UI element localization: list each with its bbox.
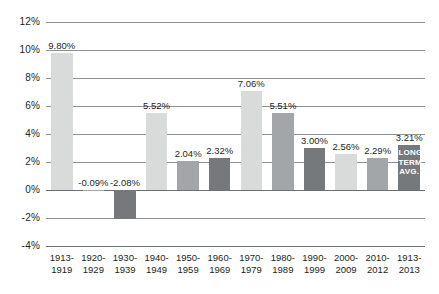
x-category-label-line: 1999 <box>299 264 331 276</box>
x-category-label-line: 1979 <box>236 264 268 276</box>
bar-value-label: 7.06% <box>231 79 272 89</box>
x-category-label-line: 1980- <box>267 252 299 264</box>
bar-value-label: 5.52% <box>136 101 177 111</box>
bar-value-label: 5.51% <box>262 101 303 111</box>
x-category-label: 1950-1959 <box>172 252 204 276</box>
x-category-label-line: 2012 <box>362 264 394 276</box>
bar-group: 5.51% <box>272 0 293 294</box>
y-tick-label: 12% <box>0 17 40 27</box>
x-category-label-line: 1989 <box>267 264 299 276</box>
x-category-label-line: 2010- <box>362 252 394 264</box>
x-category-label: 2010-2012 <box>362 252 394 276</box>
x-category-label: 1913-1919 <box>46 252 78 276</box>
x-category-label: 1913-2013 <box>393 252 425 276</box>
bar-group: 3.00% <box>304 0 325 294</box>
bar <box>272 113 293 190</box>
bar-chart: 12%10%8%6%4%2%0%-2%-4% 9.80%-0.09%-2.08%… <box>0 0 439 294</box>
bar-group: 9.80% <box>51 0 72 294</box>
y-tick-label: 6% <box>0 101 40 111</box>
bar <box>367 158 388 190</box>
x-category-label-line: 1919 <box>46 264 78 276</box>
bar <box>114 190 135 219</box>
bar-group: LONGTERMAVG.3.21% <box>398 0 419 294</box>
x-category-label-line: 1990- <box>299 252 331 264</box>
y-tick-label: -4% <box>0 241 40 251</box>
bar <box>146 113 167 190</box>
x-category-label-line: 1920- <box>78 252 110 264</box>
bar-value-label: 9.80% <box>41 41 82 51</box>
bar-annotation-line: LONG <box>398 148 419 158</box>
bar-group: -0.09% <box>83 0 104 294</box>
bar-value-label: -2.08% <box>104 178 145 188</box>
x-axis-category-labels: 1913-19191920-19291930-19391940-19491950… <box>46 252 425 284</box>
x-category-label-line: 1970- <box>236 252 268 264</box>
bar-group: -2.08% <box>114 0 135 294</box>
y-tick-label: 0% <box>0 185 40 195</box>
x-category-label: 1990-1999 <box>299 252 331 276</box>
x-category-label: 1970-1979 <box>236 252 268 276</box>
bar-annotation: LONGTERMAVG. <box>398 148 419 177</box>
x-category-label-line: 1949 <box>141 264 173 276</box>
x-category-label-line: 1939 <box>109 264 141 276</box>
bar: LONGTERMAVG. <box>398 145 419 190</box>
x-category-label-line: 2013 <box>393 264 425 276</box>
x-category-label: 2000-2009 <box>330 252 362 276</box>
x-category-label: 1930-1939 <box>109 252 141 276</box>
bar <box>335 154 356 190</box>
bar-group: 2.29% <box>367 0 388 294</box>
x-category-label: 1920-1929 <box>78 252 110 276</box>
y-tick-label: 4% <box>0 129 40 139</box>
x-category-label-line: 2000- <box>330 252 362 264</box>
x-category-label-line: 1930- <box>109 252 141 264</box>
bar-value-label: 2.32% <box>199 146 240 156</box>
x-category-label-line: 1950- <box>172 252 204 264</box>
bar-series: 9.80%-0.09%-2.08%5.52%2.04%2.32%7.06%5.5… <box>46 0 425 294</box>
bar <box>304 148 325 190</box>
bar <box>177 161 198 190</box>
bar-group: 2.04% <box>177 0 198 294</box>
x-category-label: 1960-1969 <box>204 252 236 276</box>
x-category-label-line: 1940- <box>141 252 173 264</box>
y-tick-label: -2% <box>0 213 40 223</box>
bar-value-label: 3.21% <box>388 133 429 143</box>
x-category-label-line: 1929 <box>78 264 110 276</box>
bar-group: 7.06% <box>241 0 262 294</box>
x-category-label: 1980-1989 <box>267 252 299 276</box>
bar <box>209 158 230 190</box>
bar <box>241 91 262 190</box>
bar <box>51 53 72 190</box>
y-tick-label: 10% <box>0 45 40 55</box>
x-category-label: 1940-1949 <box>141 252 173 276</box>
x-category-label-line: 1969 <box>204 264 236 276</box>
y-tick-label: 8% <box>0 73 40 83</box>
x-category-label-line: 2009 <box>330 264 362 276</box>
x-category-label-line: 1960- <box>204 252 236 264</box>
x-category-label-line: 1959 <box>172 264 204 276</box>
bar-group: 2.32% <box>209 0 230 294</box>
x-category-label-line: 1913- <box>46 252 78 264</box>
bar-group: 5.52% <box>146 0 167 294</box>
bar-group: 2.56% <box>335 0 356 294</box>
x-category-label-line: 1913- <box>393 252 425 264</box>
bar <box>83 190 104 191</box>
y-tick-label: 2% <box>0 157 40 167</box>
bar-annotation-line: TERM <box>398 158 419 168</box>
bar-annotation-line: AVG. <box>398 167 419 177</box>
bar-value-label: 2.29% <box>357 146 398 156</box>
